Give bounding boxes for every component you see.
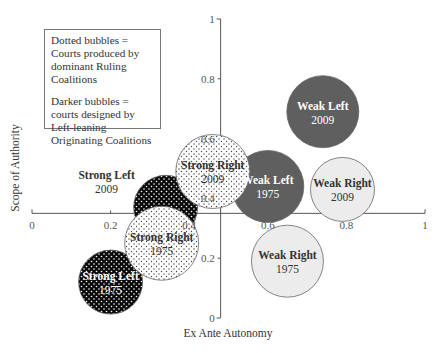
bubble-label-strong-left-1975: Strong Left [82,270,138,283]
legend-box: Dotted bubbles = Courts produced by domi… [44,29,161,129]
y-tick-0.8: 0.8 [201,73,215,85]
bubble-year-weak-left-2009: 2009 [311,114,334,126]
bubble-label-strong-right-2009: Strong Right [181,159,245,172]
y-axis-label: Scope of Authority [9,124,22,212]
y-tick-0.2: 0.2 [201,252,215,264]
x-tick-0: 0 [29,219,35,231]
bubble-year-strong-right-1975: 1975 [150,245,173,257]
bubble-year-strong-left-1975: 1975 [99,284,122,296]
x-tick-0.8: 0.8 [340,219,354,231]
x-tick-0.4: 0.4 [182,219,196,231]
x-tick-0.2: 0.2 [104,219,118,231]
bubble-year-weak-right-2009: 2009 [331,191,354,203]
bubble-year-strong-right-2009: 2009 [201,173,224,185]
bubble-label-weak-right-1975: Weak Right [258,249,317,262]
bubble-year-strong-left-2009: 2009 [95,183,118,195]
x-tick-1: 1 [422,219,428,231]
x-axis-label: Ex Ante Autonomy [184,327,273,340]
y-tick-0.6: 0.6 [201,133,215,145]
bubble-label-weak-right-2009: Weak Right [313,177,372,190]
y-tick-0: 0 [209,312,215,324]
legend-darker-note: Darker bubbles = courts designed by Left… [51,95,154,147]
y-tick-0.4: 0.4 [201,192,215,204]
x-tick-0.6: 0.6 [261,219,275,231]
bubble-year-weak-right-1975: 1975 [276,263,299,275]
bubble-label-weak-left-1975: Weak Left [242,174,294,186]
bubble-label-strong-right-1975: Strong Right [130,231,194,244]
bubble-label-strong-left-2009: Strong Left [78,169,134,182]
y-tick-1: 1 [209,13,215,25]
bubble-label-weak-left-2009: Weak Left [297,100,349,112]
legend-dotted-note: Dotted bubbles = Courts produced by domi… [51,34,154,86]
bubble-year-weak-left-1975: 1975 [256,188,279,200]
